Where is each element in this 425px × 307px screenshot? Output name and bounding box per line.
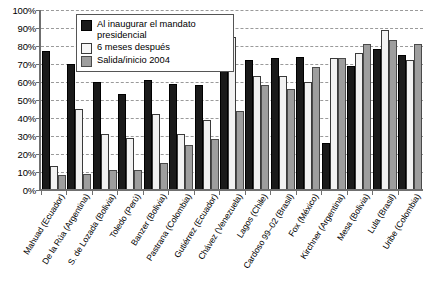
y-tick-label: 50% (18, 95, 36, 106)
y-tick-mark (36, 46, 41, 47)
bar-series-1 (355, 53, 363, 190)
bar-chart: 0%10%20%30%40%50%60%70%80%90%100% Mahuad… (0, 0, 425, 307)
y-tick-label: 40% (18, 113, 36, 124)
bar-series-2 (389, 40, 397, 190)
y-tick-mark (36, 154, 41, 155)
y-tick-label: 70% (18, 59, 36, 70)
legend-label-1: 6 meses después (97, 42, 170, 53)
x-axis-category-label: Pastrana (Colombia) (144, 192, 193, 263)
bar-series-0 (67, 64, 75, 190)
bar-series-2 (160, 163, 168, 190)
x-axis-labels: Mahuad (Ecuador)De la Rúa (Argentina)S. … (41, 192, 423, 307)
y-tick-mark (36, 10, 41, 11)
legend-item-2: Salida/inicio 2004 (81, 55, 228, 67)
x-axis-category-label: De la Rúa (Argentina) (40, 192, 91, 266)
bar-series-1 (50, 166, 58, 190)
bar-series-1 (304, 82, 312, 190)
bar-series-2 (414, 44, 422, 190)
bar-series-0 (118, 94, 126, 190)
y-tick-label: 90% (18, 23, 36, 34)
bar-series-0 (271, 58, 279, 190)
bar-series-0 (347, 66, 355, 190)
bar-series-2 (211, 139, 219, 190)
bar-series-0 (195, 85, 203, 190)
bar-group (41, 10, 66, 190)
y-tick-mark (36, 64, 41, 65)
y-tick-mark (36, 118, 41, 119)
bar-series-2 (312, 67, 320, 190)
bar-series-1 (330, 58, 338, 190)
bar-series-0 (169, 84, 177, 190)
y-tick-mark (36, 28, 41, 29)
y-axis-labels: 0%10%20%30%40%50%60%70%80%90%100% (0, 10, 36, 190)
legend-label-2: Salida/inicio 2004 (97, 55, 170, 66)
legend-swatch-white-square (81, 43, 92, 54)
bar-series-0 (144, 80, 152, 190)
legend-item-0: Al inaugurar el mandato presidencial (81, 19, 228, 41)
y-tick-mark (36, 82, 41, 83)
y-tick-mark (36, 190, 41, 191)
y-tick-label: 10% (18, 167, 36, 178)
bar-series-2 (83, 174, 91, 190)
bar-series-2 (363, 44, 371, 190)
x-axis-line (39, 189, 423, 191)
bar-group (270, 10, 295, 190)
legend-item-1: 6 meses después (81, 42, 228, 54)
bar-series-0 (398, 55, 406, 190)
bar-group (245, 10, 270, 190)
y-tick-label: 80% (18, 41, 36, 52)
bar-series-2 (287, 89, 295, 190)
y-tick-label: 30% (18, 131, 36, 142)
bar-series-2 (134, 170, 142, 190)
bar-series-0 (296, 57, 304, 190)
legend-label-0: Al inaugurar el mandato presidencial (97, 19, 228, 41)
bar-series-2 (185, 145, 193, 190)
y-tick-label: 60% (18, 77, 36, 88)
y-tick-mark (36, 100, 41, 101)
bar-series-1 (75, 109, 83, 190)
bar-series-1 (406, 60, 414, 190)
legend-swatch-black-square (81, 20, 92, 31)
bar-group (347, 10, 372, 190)
bar-series-0 (322, 143, 330, 190)
bar-group (296, 10, 321, 190)
bar-series-1 (177, 134, 185, 190)
bar-series-1 (381, 30, 389, 190)
y-tick-mark (36, 172, 41, 173)
bar-series-2 (338, 58, 346, 190)
bar-series-1 (203, 120, 211, 190)
bar-series-2 (58, 175, 66, 190)
bar-group (321, 10, 346, 190)
y-tick-label: 0% (23, 185, 36, 196)
bar-series-0 (245, 60, 253, 190)
bar-series-1 (279, 76, 287, 190)
bar-group (398, 10, 423, 190)
legend-swatch-gray-square (81, 56, 92, 67)
bar-series-1 (101, 134, 109, 190)
bar-series-0 (373, 49, 381, 190)
bar-series-1 (152, 114, 160, 190)
bar-series-0 (93, 82, 101, 190)
bar-group (372, 10, 397, 190)
bar-series-1 (253, 76, 261, 190)
y-tick-label: 20% (18, 149, 36, 160)
bar-series-0 (42, 51, 50, 190)
bar-series-2 (109, 170, 117, 190)
y-tick-label: 100% (13, 5, 37, 16)
chart-legend: Al inaugurar el mandato presidencial 6 m… (76, 14, 234, 72)
y-tick-mark (36, 136, 41, 137)
bar-series-2 (261, 85, 269, 190)
bar-series-1 (126, 138, 134, 190)
bar-series-2 (236, 111, 244, 190)
